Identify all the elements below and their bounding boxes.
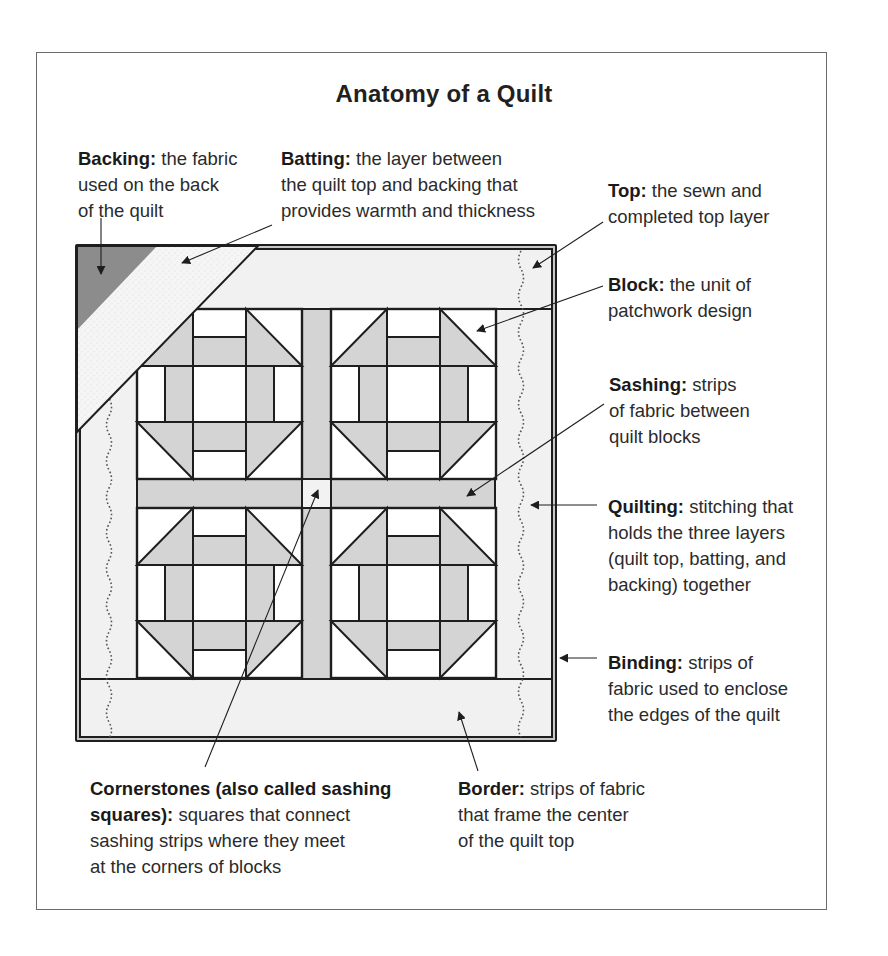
- quilt-diagram: [0, 0, 888, 956]
- border-right: [495, 309, 552, 679]
- block-bottom-right: [331, 508, 496, 678]
- border-bottom: [80, 679, 552, 737]
- block-top-right: [331, 309, 496, 479]
- block-bottom-left: [137, 508, 302, 678]
